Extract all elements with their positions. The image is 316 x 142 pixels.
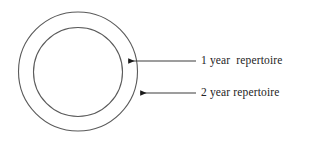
outer-circle-2-year: [19, 12, 138, 131]
figure-canvas: 1 year repertoire 2 year repertoire: [0, 0, 316, 142]
annotation-label-2-year-repertoire: 2 year repertoire: [201, 87, 280, 99]
annotation-label-1-year-repertoire: 1 year repertoire: [201, 55, 283, 67]
concentric-circle-diagram: [0, 0, 316, 142]
inner-circle-1-year: [34, 28, 123, 117]
